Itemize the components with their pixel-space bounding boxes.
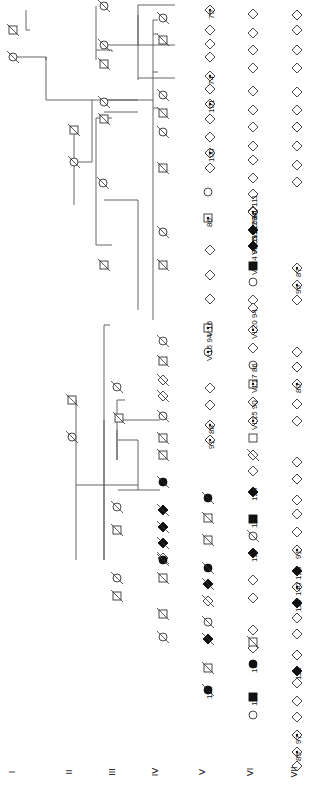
individual-IV-9 bbox=[157, 335, 169, 347]
individual-label: VI:15 90 bbox=[250, 400, 259, 430]
individual-V-7: 101 bbox=[205, 99, 216, 113]
individual-VII-2 bbox=[292, 25, 302, 35]
individual-VI-13b bbox=[247, 449, 259, 461]
individual-VI-1b: 114 bbox=[249, 693, 259, 706]
unknown-sex-diamond-icon bbox=[292, 399, 302, 409]
individual-label: 117 bbox=[250, 515, 259, 528]
individual-III-2 bbox=[98, 39, 110, 51]
individual-label: VI:20 94 bbox=[250, 309, 259, 339]
unknown-sex-diamond-icon bbox=[248, 593, 258, 603]
individuals: 757410110086V:16V:15 9488911188994VI:26 … bbox=[7, 0, 303, 771]
unknown-sex-diamond-icon bbox=[292, 295, 302, 305]
individual-VII-33 bbox=[292, 696, 302, 706]
individual-label: 119 bbox=[294, 599, 303, 612]
individual-III-7 bbox=[98, 259, 110, 271]
generation-label: I bbox=[7, 771, 17, 774]
individual-VI-8b: 127 bbox=[248, 548, 259, 562]
unknown-sex-diamond-icon bbox=[248, 86, 258, 96]
unknown-sex-diamond-icon bbox=[292, 457, 302, 467]
individual-VII-22 bbox=[292, 509, 302, 519]
individual-VII-18 bbox=[292, 416, 302, 426]
generation-label: II bbox=[64, 769, 74, 774]
individual-IV-16 bbox=[157, 476, 169, 488]
individual-label: 75 bbox=[207, 10, 216, 19]
individual-VII-11: 87 bbox=[292, 263, 303, 277]
individual-IV-5 bbox=[157, 126, 169, 138]
individual-label: VI:17 86 bbox=[250, 363, 259, 393]
individual-label: 80 bbox=[294, 384, 303, 393]
individual-III-3 bbox=[98, 58, 110, 70]
female-circle-icon bbox=[204, 188, 212, 196]
individual-VI-10b: 117 bbox=[249, 515, 259, 528]
individual-VI-3b bbox=[247, 636, 259, 648]
individual-VI-5 bbox=[248, 86, 258, 96]
generation-labels: IIIIIIIVVVIVII bbox=[7, 766, 299, 777]
individual-VII-7 bbox=[292, 122, 302, 132]
individual-VII-1 bbox=[292, 10, 302, 20]
unknown-sex-diamond-icon bbox=[292, 712, 302, 722]
individual-VI-9b bbox=[247, 530, 259, 542]
individual-label: 101 bbox=[207, 99, 216, 113]
individual-VI-5b bbox=[248, 625, 258, 635]
individual-IV-19 bbox=[157, 537, 169, 549]
individual-IV-10 bbox=[157, 355, 169, 367]
unknown-sex-diamond-icon bbox=[248, 575, 258, 585]
individual-VII-14 bbox=[292, 347, 302, 357]
individual-V-25 bbox=[202, 578, 214, 590]
individual-V-2 bbox=[205, 25, 215, 35]
individual-V-14 bbox=[205, 245, 215, 255]
unknown-sex-diamond-icon bbox=[292, 141, 302, 151]
individual-VII-12: 96 bbox=[292, 280, 303, 294]
unknown-sex-diamond-icon bbox=[248, 155, 258, 165]
unknown-sex-diamond-icon bbox=[292, 650, 302, 660]
individual-label: 123 bbox=[294, 566, 303, 580]
individual-VII-28 bbox=[292, 613, 302, 623]
unknown-sex-diamond-icon bbox=[292, 160, 302, 170]
unknown-sex-diamond-icon bbox=[292, 105, 302, 115]
individual-VI-0b bbox=[249, 711, 257, 719]
individual-V-15b: V:15 94 bbox=[204, 333, 214, 361]
individual-VI-6 bbox=[248, 105, 258, 115]
individual-IV-21 bbox=[157, 554, 169, 566]
individual-V-18 bbox=[205, 400, 215, 410]
individual-VII-35: 97 bbox=[292, 730, 303, 744]
individual-VII-20 bbox=[292, 474, 302, 484]
individual-VII-19 bbox=[292, 457, 302, 467]
generation-label: V bbox=[197, 769, 207, 775]
pedigree-diagram: 757410110086V:16V:15 9488911188994VI:26 … bbox=[0, 0, 321, 811]
individual-VII-21 bbox=[292, 495, 302, 505]
unknown-sex-diamond-icon bbox=[248, 105, 258, 115]
individual-VI-6b bbox=[248, 593, 258, 603]
unknown-sex-diamond-icon bbox=[292, 629, 302, 639]
unknown-sex-diamond-icon bbox=[248, 45, 258, 55]
unknown-sex-diamond-icon bbox=[292, 347, 302, 357]
individual-label: 86 bbox=[205, 218, 214, 227]
individual-IV-17 bbox=[157, 504, 169, 516]
individual-VII-8 bbox=[292, 141, 302, 151]
unknown-sex-diamond-icon bbox=[292, 474, 302, 484]
individual-VI-24: VI:24 90 111 bbox=[249, 230, 259, 275]
individual-V-9 bbox=[205, 132, 215, 142]
individual-III-11 bbox=[111, 524, 123, 536]
relationship-lines bbox=[13, 5, 175, 560]
unknown-sex-diamond-icon bbox=[292, 10, 302, 20]
individual-VI-14 bbox=[249, 434, 257, 442]
individual-V-29 bbox=[202, 662, 214, 674]
unknown-sex-diamond-icon bbox=[292, 509, 302, 519]
unknown-sex-diamond-icon bbox=[248, 9, 258, 19]
individual-label: 118 bbox=[205, 686, 214, 699]
unknown-sex-diamond-icon bbox=[248, 122, 258, 132]
individual-III-10 bbox=[111, 501, 123, 513]
individual-V-12 bbox=[204, 188, 212, 196]
unknown-sex-diamond-icon bbox=[292, 122, 302, 132]
unknown-sex-diamond-icon bbox=[292, 63, 302, 73]
individual-label: 85 bbox=[294, 752, 303, 761]
individual-IV-22 bbox=[157, 572, 169, 584]
unknown-sex-diamond-icon bbox=[248, 173, 258, 183]
individual-VII-6 bbox=[292, 105, 302, 115]
individual-VI-4 bbox=[248, 63, 258, 73]
individual-IV-18 bbox=[157, 521, 169, 533]
unknown-sex-diamond-icon bbox=[248, 141, 258, 151]
individual-IV-15 bbox=[157, 449, 169, 461]
individual-V-21 bbox=[202, 492, 214, 504]
